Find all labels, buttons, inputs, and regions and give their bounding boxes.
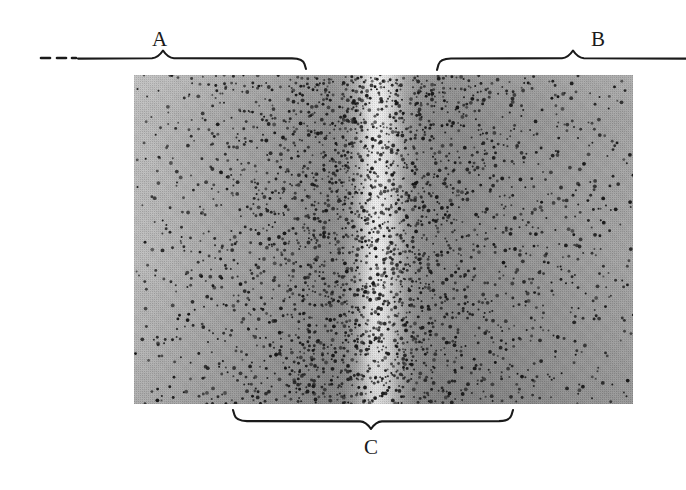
figure-page: A B C <box>0 0 686 490</box>
vertical-shading-layer <box>134 75 633 404</box>
brace-region-a <box>78 51 306 70</box>
brace-region-c <box>233 410 513 429</box>
figure-image-panel <box>134 75 633 404</box>
region-label-b: B <box>591 29 605 50</box>
region-label-c: C <box>364 437 378 458</box>
region-label-a: A <box>152 29 167 50</box>
brace-region-b <box>437 51 686 71</box>
